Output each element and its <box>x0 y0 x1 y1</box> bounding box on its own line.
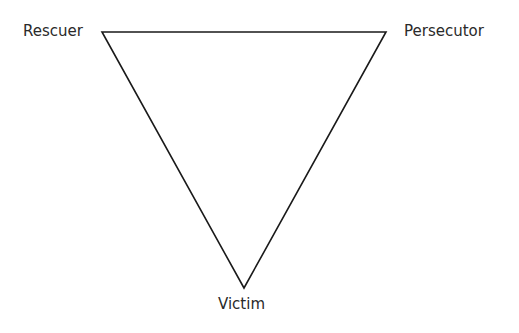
persecutor-label: Persecutor <box>404 22 484 40</box>
triangle-shape <box>102 32 386 288</box>
rescuer-label: Rescuer <box>23 22 83 40</box>
victim-label: Victim <box>218 295 265 313</box>
triangle-diagram <box>0 0 519 333</box>
